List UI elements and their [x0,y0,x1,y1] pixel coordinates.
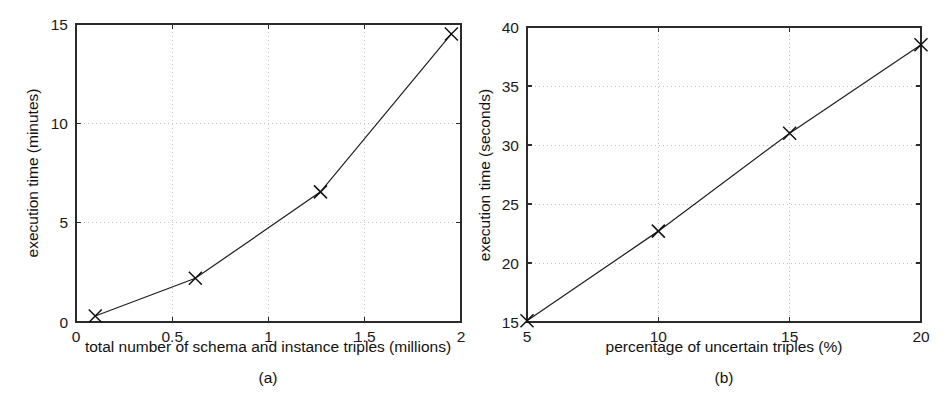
chart-a-svg: 00.511.52 051015 total number of schema … [0,0,470,397]
chart-a-y-tick-label: 5 [59,214,68,231]
chart-b-plot-frame [527,27,921,322]
chart-b-y-tick-label: 35 [502,78,519,95]
chart-b-x-axis-title: percentage of uncertain triples (%) [606,338,843,355]
chart-b-x-tick-label: 20 [912,328,930,345]
chart-a-x-axis-title: total number of schema and instance trip… [85,338,451,355]
chart-a-x-tick-label: 2 [457,328,466,345]
chart-b-y-tick-label: 25 [502,196,519,213]
chart-a-series-markers [89,27,458,322]
chart-b-y-tick-label: 20 [502,255,520,272]
chart-panel-a: 00.511.52 051015 total number of schema … [0,0,470,397]
chart-a-y-tick-label: 0 [59,314,68,331]
chart-b-panel-caption: (b) [715,369,734,386]
chart-b-x-tick-label: 5 [523,328,532,345]
chart-a-series-line [95,34,451,316]
figure-root: 00.511.52 051015 total number of schema … [0,0,947,397]
chart-a-marker [445,27,458,40]
chart-panel-b: 5101520 152025303540 percentage of uncer… [470,0,947,397]
chart-a-marker [89,310,102,323]
chart-b-gridlines [527,27,921,322]
chart-a-panel-caption: (a) [259,369,278,386]
chart-a-y-tick-label: 15 [51,16,68,33]
chart-b-ticks [527,27,921,322]
chart-a-marker [189,272,202,285]
chart-b-svg: 5101520 152025303540 percentage of uncer… [470,0,947,397]
chart-b-y-axis-title: execution time (seconds) [476,89,493,261]
chart-a-y-axis-title: execution time (minutes) [24,89,41,258]
chart-b-y-tick-label: 40 [502,19,520,36]
chart-b-marker [783,127,796,140]
chart-b-y-tick-labels: 152025303540 [502,19,520,331]
chart-a-marker [314,185,327,198]
chart-b-y-tick-label: 15 [502,314,519,331]
chart-a-gridlines [76,24,461,322]
chart-a-x-tick-label: 0 [72,328,81,345]
chart-b-y-tick-label: 30 [502,137,520,154]
chart-a-y-tick-label: 10 [51,115,69,132]
chart-a-y-tick-labels: 051015 [51,16,69,331]
